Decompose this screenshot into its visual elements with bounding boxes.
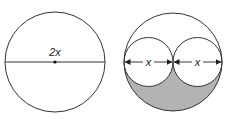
right-figure: x x	[124, 13, 222, 111]
left-figure: 2x	[5, 12, 105, 112]
dim-label-right: x	[194, 56, 201, 68]
diameter-label: 2x	[48, 46, 61, 58]
center-point	[53, 60, 56, 63]
dim-label-left: x	[145, 56, 152, 68]
diagram-canvas: 2x x x	[0, 0, 231, 119]
